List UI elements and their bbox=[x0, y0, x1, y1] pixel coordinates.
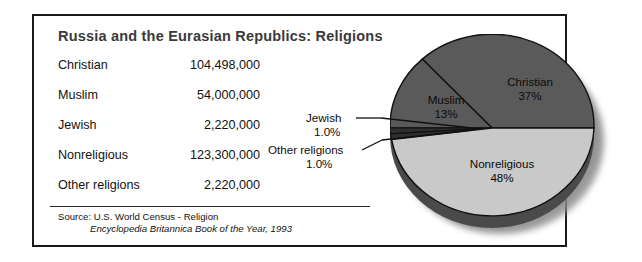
row-value-other-religions: 2,220,000 bbox=[140, 178, 260, 192]
row-label-nonreligious: Nonreligious bbox=[58, 148, 128, 162]
divider bbox=[50, 206, 370, 207]
source-line-1: Source: U.S. World Census - Religion bbox=[58, 211, 218, 222]
pie-label-christian-pct: 37% bbox=[518, 89, 541, 102]
row-value-nonreligious: 123,300,000 bbox=[140, 148, 260, 162]
pie-label-muslim-name: Muslim bbox=[428, 93, 465, 106]
pie-label-nonreligious-pct: 48% bbox=[490, 171, 513, 184]
pie-label-nonreligious-name: Nonreligious bbox=[470, 157, 535, 170]
callout-jewish-pct: 1.0% bbox=[314, 125, 340, 138]
row-value-jewish: 2,220,000 bbox=[140, 118, 260, 132]
row-label-christian: Christian bbox=[58, 58, 108, 72]
page-title: Russia and the Eurasian Republics: Relig… bbox=[58, 28, 383, 44]
row-value-christian: 104,498,000 bbox=[140, 58, 260, 72]
row-label-muslim: Muslim bbox=[58, 88, 98, 102]
callout-other-religions-name: Other religions bbox=[268, 143, 343, 156]
pie-label-muslim-pct: 13% bbox=[434, 107, 457, 120]
pie-chart: Christian 37% Muslim 13% Nonreligious 48… bbox=[370, 28, 642, 238]
callout-other-religions-pct: 1.0% bbox=[306, 157, 332, 170]
callout-jewish-name: Jewish bbox=[306, 111, 341, 124]
pie-surface: Christian 37% Muslim 13% Nonreligious 48… bbox=[390, 34, 600, 226]
row-label-other-religions: Other religions bbox=[58, 178, 140, 192]
row-value-muslim: 54,000,000 bbox=[140, 88, 260, 102]
pie-label-christian-name: Christian bbox=[507, 75, 553, 88]
source-line-2: Encyclopedia Britannica Book of the Year… bbox=[90, 223, 292, 234]
row-label-jewish: Jewish bbox=[58, 118, 97, 132]
